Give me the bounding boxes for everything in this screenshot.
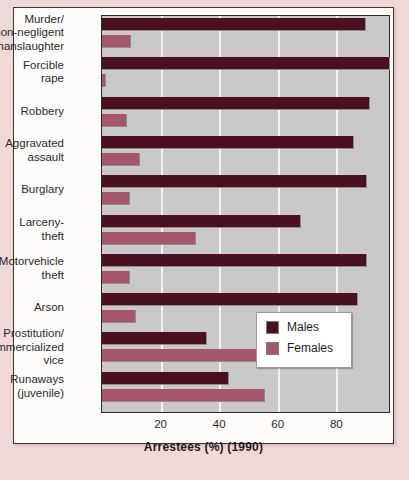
bar-females: [102, 232, 196, 245]
bar-males: [102, 57, 390, 70]
category-label: Burglary: [0, 183, 64, 197]
category-label: Forcible rape: [0, 59, 64, 86]
category-label: Runaways (juvenile): [0, 373, 64, 400]
category-label: Robbery: [0, 105, 64, 119]
category-label: Murder/ non-negligent manslaughter: [0, 13, 64, 54]
bar-females: [102, 271, 130, 284]
bar-males: [102, 136, 354, 149]
bar-females: [102, 35, 131, 48]
bar-males: [102, 293, 358, 306]
legend-label-females: Females: [287, 341, 333, 355]
category-label: Aggravated assault: [0, 137, 64, 164]
x-tick-20: 20: [141, 418, 181, 430]
legend-label-males: Males: [287, 320, 319, 334]
x-tick-80: 80: [316, 418, 356, 430]
bar-males: [102, 372, 229, 385]
bar-females: [102, 310, 136, 323]
bar-males: [102, 332, 207, 345]
legend-swatch-males: [266, 321, 279, 334]
bar-females: [102, 153, 140, 166]
x-tick-60: 60: [258, 418, 298, 430]
bar-males: [102, 18, 366, 31]
legend-item-females: Females: [266, 341, 351, 355]
bar-females: [102, 74, 106, 87]
x-axis-title: Arrestees (%) (1990): [14, 440, 393, 454]
bar-males: [102, 97, 370, 110]
bar-females: [102, 389, 265, 402]
legend-item-males: Males: [266, 320, 351, 334]
category-label: Arson: [0, 301, 64, 315]
x-tick-40: 40: [199, 418, 239, 430]
category-label: Larceny- theft: [0, 216, 64, 243]
category-label: Prostitution/ commercialized vice: [0, 327, 64, 368]
bar-females: [102, 114, 127, 127]
legend: Males Females: [256, 312, 352, 368]
legend-swatch-females: [266, 342, 279, 355]
figure-card: Murder/ non-negligent manslaughterForcib…: [13, 7, 394, 444]
bar-males: [102, 175, 367, 188]
category-label: Motorvehicle theft: [0, 255, 64, 282]
bar-females: [102, 192, 130, 205]
bar-males: [102, 215, 301, 228]
bar-males: [102, 254, 367, 267]
